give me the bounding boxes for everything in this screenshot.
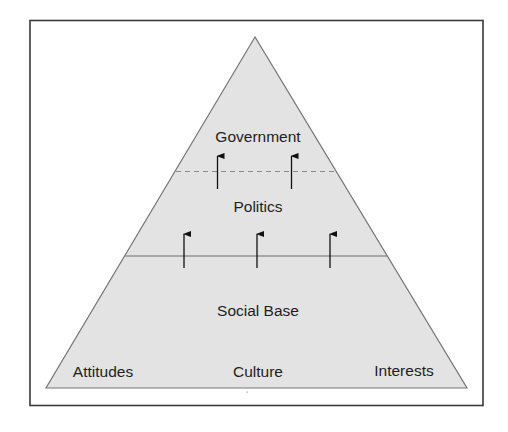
base-label-attitudes: Attitudes [73,363,134,380]
base-label-interests: Interests [374,362,434,379]
pyramid-diagram: Government Politics Social Base Attitude… [0,0,508,432]
base-label-culture: Culture [233,363,283,380]
layer-label-social-base: Social Base [217,302,299,319]
layer-label-politics: Politics [233,198,282,215]
scan-speck [246,391,247,392]
layer-label-government: Government [215,128,301,145]
